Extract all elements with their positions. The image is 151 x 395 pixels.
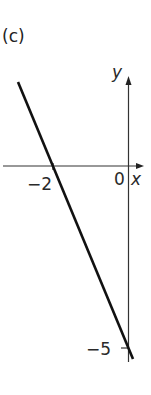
y-axis — [126, 76, 132, 362]
y-axis-label: y — [111, 62, 123, 82]
x-axis-label: x — [130, 169, 142, 189]
x-tick-label-neg2: −2 — [27, 174, 52, 194]
data-line — [18, 82, 133, 359]
line-graph: y x 0 −2 −5 — [0, 0, 151, 395]
y-tick-label-neg5: −5 — [86, 339, 111, 359]
origin-label: 0 — [114, 169, 125, 189]
y-axis-arrow-icon — [126, 76, 132, 85]
